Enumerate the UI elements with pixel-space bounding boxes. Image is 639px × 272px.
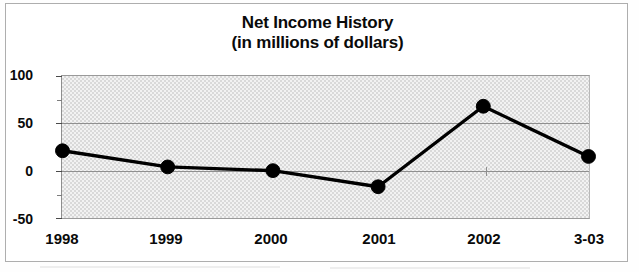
chart-container: Net Income History (in millions of dolla… [5,3,628,262]
chart-title-block: Net Income History (in millions of dolla… [6,13,629,53]
x-axis-label-2001: 2001 [362,230,395,247]
data-point-1998[interactable] [56,144,70,158]
y-axis-label-50: 50 [0,115,33,131]
chart-title: Net Income History [6,13,629,33]
data-point-3-03[interactable] [582,150,596,164]
x-axis-label-1998: 1998 [45,230,78,247]
y-axis-label-minus-50: -50 [0,211,33,227]
scanned-page: Net Income History (in millions of dolla… [0,0,639,272]
y-axis-label-0: 0 [0,163,33,179]
x-axis: 1998 1999 2000 2001 2002 3-03 [6,230,629,254]
scan-artifact [330,267,530,269]
data-point-2001[interactable] [371,180,385,194]
data-point-2002[interactable] [476,99,490,113]
y-axis-label-100: 100 [0,67,33,83]
data-series-net-income [62,76,589,218]
x-axis-label-2002: 2002 [467,230,500,247]
plot-area [61,75,590,219]
x-axis-label-2000: 2000 [254,230,287,247]
scan-artifact [40,266,280,268]
x-axis-label-3-03: 3-03 [574,230,604,247]
y-tick-minus-50 [56,218,62,219]
x-axis-label-1999: 1999 [149,230,182,247]
data-point-2000[interactable] [266,164,280,178]
data-point-1999[interactable] [161,160,175,174]
series-line [62,106,588,186]
chart-subtitle: (in millions of dollars) [6,33,629,53]
